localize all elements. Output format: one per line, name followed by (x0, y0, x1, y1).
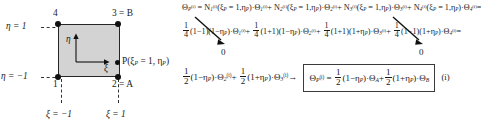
eq3-term-2: 12(1+ηP)·Θ3(i)→ (239, 72, 297, 82)
node-label-4: 4 (53, 9, 58, 18)
eq2-t1-frac: 14 (183, 22, 189, 40)
node-label-3: 3 = B (112, 9, 133, 18)
eq3-t2-factors: (1+η (247, 72, 264, 82)
node-label-1: 1 (53, 80, 58, 89)
node-4 (55, 21, 61, 27)
eq3-term-1: 12(1−ηP)·Θ2(i)+ (182, 72, 237, 82)
box-t2-factors: (1+η (393, 73, 410, 83)
point-P-label: P(ξP = 1, ηP) (122, 57, 169, 67)
box-t1-factors: (1−η (342, 73, 359, 83)
point-P-label-end: ) (166, 56, 169, 66)
eq3-t2-op: → (288, 72, 297, 82)
eq3-t1-frac: 12 (183, 67, 190, 86)
eq1-term-2: N2(i)(ξP = 1,ηP)·Θ2(i)+ (274, 3, 342, 12)
eq2-t1-den: 4 (183, 30, 189, 39)
eq2-t3-op: + (386, 27, 391, 36)
box-t1-num: 1 (335, 68, 342, 77)
equation-line-1: ΘP(i) = N1(i)(ξP = 1,ηP)·Θ1(i)+ N2(i)(ξP… (182, 3, 481, 12)
axis-label-eta: η (66, 35, 71, 44)
natural-axes (73, 32, 115, 66)
eq3-t1-factors: (1−η (191, 72, 208, 82)
eq2-term-2: 14(1+1)(1−ηP)·Θ2(i)+ (252, 27, 320, 36)
eq1-t1-op: + (267, 3, 272, 12)
guide-label-eta-top: η = 1 (6, 22, 26, 31)
eq3-t1-num: 1 (183, 67, 190, 76)
box-term-1: 12(1−ηP)·ΘA+ (334, 73, 384, 83)
eq2-t3-num: 1 (324, 22, 330, 30)
eq1-lhs-sup: (i) (191, 4, 195, 9)
box-lhs-sup: (i) (319, 74, 324, 80)
eq2-t2-den: 4 (253, 30, 259, 39)
box-t1-den: 2 (335, 77, 342, 87)
box-t2-frac: 12 (385, 68, 392, 87)
guide-label-xi-left: ξ = −1 (46, 110, 72, 119)
guide-label-eta-bottom: η = −1 (1, 72, 28, 81)
box-equals: = (327, 73, 332, 83)
point-P-label-mid: = 1, η (138, 56, 162, 66)
eq2-t4-op: = (456, 27, 461, 36)
eq1-term-4: N4(i)(ξP = 1,ηP)·Θ4(i)= (414, 3, 481, 12)
eq2-term-3: 14(1+1)(1+ηP)·Θ3(i)+ (323, 27, 391, 36)
eq3-t2-num: 1 (240, 67, 247, 76)
eq1-term-3: N3(i)(ξP = 1,ηP)·Θ3(i)+ (344, 3, 412, 12)
eq2-t3-den: 4 (324, 30, 330, 39)
guide-xi-left (61, 79, 62, 103)
eq1-t2-argmid: = 1,η (296, 3, 315, 12)
eq2-t2-frac: 14 (253, 22, 259, 40)
eq2-t1-num: 1 (183, 22, 189, 30)
equation-tag: (i) (441, 72, 449, 82)
eq1-t4-op: = (477, 3, 481, 12)
eq1-equals: = (198, 3, 203, 12)
eq2-t2-factors: (1+1)(1−η (260, 27, 294, 36)
eq3-t2-frac: 12 (240, 67, 247, 86)
eq3-t1-op: + (231, 72, 236, 82)
eq1-t1-argmid: = 1,η (227, 3, 246, 12)
point-P-marker (115, 60, 120, 65)
eq1-t3-argmid: = 1,η (366, 3, 385, 12)
equation-line-3: 12(1−ηP)·Θ2(i)+ 12(1+ηP)·Θ3(i)→ ΘP(i) = … (182, 64, 450, 92)
eq2-t2-op: + (316, 27, 321, 36)
eq1-t3-op: + (407, 3, 412, 12)
zero-left: 0 (221, 47, 226, 57)
eq2-t2-num: 1 (253, 22, 259, 30)
node-label-2: 2 = A (112, 80, 133, 89)
axis-label-xi: ξ (104, 64, 108, 73)
eq1-t2-op: + (337, 3, 342, 12)
boxed-result: ΘP(i) = 12(1−ηP)·ΘA+12(1+ηP)·ΘB (303, 64, 435, 92)
box-t2-den: 2 (385, 77, 392, 87)
eq2-t3-frac: 14 (324, 22, 330, 40)
eq3-t2-den: 2 (240, 76, 247, 86)
eq1-term-1: N1(i)(ξP = 1,ηP)·Θ1(i)+ (204, 3, 272, 12)
box-t1-frac: 12 (335, 68, 342, 87)
point-P-label-head: P(ξ (122, 56, 135, 66)
box-t2-thetasub: B (426, 77, 429, 83)
node-3 (115, 21, 121, 27)
box-term-2: 12(1+ηP)·ΘB (384, 73, 429, 83)
master-element-diagram: η ξ 4 3 = B 1 2 = A P(ξP = 1, ηP) η = 1 … (0, 0, 180, 133)
zero-right: 0 (419, 47, 424, 57)
eq2-t3-factors: (1+1)(1+η (331, 27, 365, 36)
equation-block: ΘP(i) = N1(i)(ξP = 1,ηP)·Θ1(i)+ N2(i)(ξP… (180, 0, 476, 133)
guide-label-xi-right: ξ = 1 (106, 110, 126, 119)
box-t2-num: 1 (385, 68, 392, 77)
eq2-t1-op: + (246, 27, 251, 36)
eq1-t4-argmid: = 1,η (436, 3, 455, 12)
eq3-t1-den: 2 (183, 76, 190, 86)
